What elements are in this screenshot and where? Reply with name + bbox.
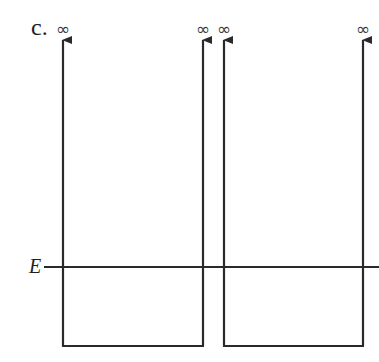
left-well — [62, 40, 204, 346]
potential-well-diagram — [0, 0, 379, 362]
right-well — [223, 40, 364, 346]
